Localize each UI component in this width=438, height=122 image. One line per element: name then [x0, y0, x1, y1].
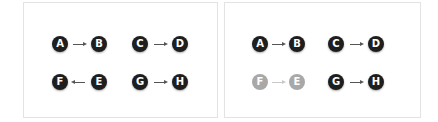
- arrow-a-to-b-icon: [73, 44, 85, 45]
- arrow-f-to-e-icon: [272, 82, 284, 83]
- left-panel: [23, 2, 218, 118]
- node-a: A: [52, 36, 68, 52]
- arrow-e-to-f-icon: [73, 82, 85, 83]
- node-g: G: [132, 74, 148, 90]
- arrow-g-to-h-icon: [350, 82, 362, 83]
- node-f: F: [52, 74, 68, 90]
- node-c: C: [328, 36, 344, 52]
- node-e: E: [91, 74, 107, 90]
- node-d: D: [172, 36, 188, 52]
- node-b: B: [289, 36, 305, 52]
- node-f: F: [252, 74, 268, 90]
- node-e: E: [289, 74, 305, 90]
- node-d: D: [368, 36, 384, 52]
- arrow-a-to-b-icon: [272, 44, 284, 45]
- node-h: H: [368, 74, 384, 90]
- node-g: G: [328, 74, 344, 90]
- arrow-c-to-d-icon: [154, 44, 166, 45]
- right-panel: [224, 2, 421, 118]
- node-b: B: [91, 36, 107, 52]
- arrow-c-to-d-icon: [350, 44, 362, 45]
- node-c: C: [132, 36, 148, 52]
- arrow-g-to-h-icon: [154, 82, 166, 83]
- node-h: H: [172, 74, 188, 90]
- node-a: A: [252, 36, 268, 52]
